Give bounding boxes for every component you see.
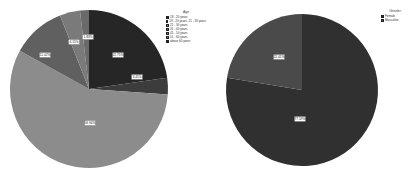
- slice-label: 22.41%: [274, 55, 285, 59]
- legend-swatch: [166, 36, 169, 39]
- age-legend-title: Age: [166, 10, 206, 14]
- slice-label: 4.15%: [69, 40, 78, 44]
- legend-swatch: [381, 19, 384, 22]
- age-pie-chart: 22.75%3.41%56.94%11.02%4.15%1.83% Age 18…: [0, 0, 210, 178]
- pie-slice: [89, 10, 167, 89]
- legend-swatch: [166, 40, 169, 43]
- pie-slice: [227, 14, 302, 90]
- legend-label: above 60 years: [170, 39, 191, 43]
- gender-legend: Gender FemaleMasculine: [381, 9, 409, 22]
- slice-label: 3.41%: [132, 75, 141, 79]
- age-legend: Age 18 - 20 years19 - 20 years, 21 - 30 …: [166, 10, 206, 43]
- legend-swatch: [381, 15, 384, 18]
- legend-swatch: [166, 20, 168, 23]
- slice-label: 56.94%: [85, 121, 96, 125]
- gender-pie-svg: 77.59%22.41%: [210, 0, 412, 178]
- slice-label: 11.02%: [40, 53, 51, 57]
- legend-label: Masculine: [385, 18, 399, 22]
- legend-item: above 60 years: [166, 39, 206, 43]
- legend-swatch: [166, 32, 169, 35]
- legend-swatch: [166, 28, 169, 31]
- gender-pie-chart: 77.59%22.41% Gender FemaleMasculine: [210, 0, 412, 178]
- slice-label: 1.83%: [83, 35, 92, 39]
- legend-swatch: [166, 24, 169, 27]
- gender-legend-title: Gender: [381, 9, 409, 13]
- slice-label: 77.59%: [295, 117, 306, 121]
- slice-label: 22.75%: [113, 53, 124, 57]
- legend-item: Masculine: [381, 18, 409, 22]
